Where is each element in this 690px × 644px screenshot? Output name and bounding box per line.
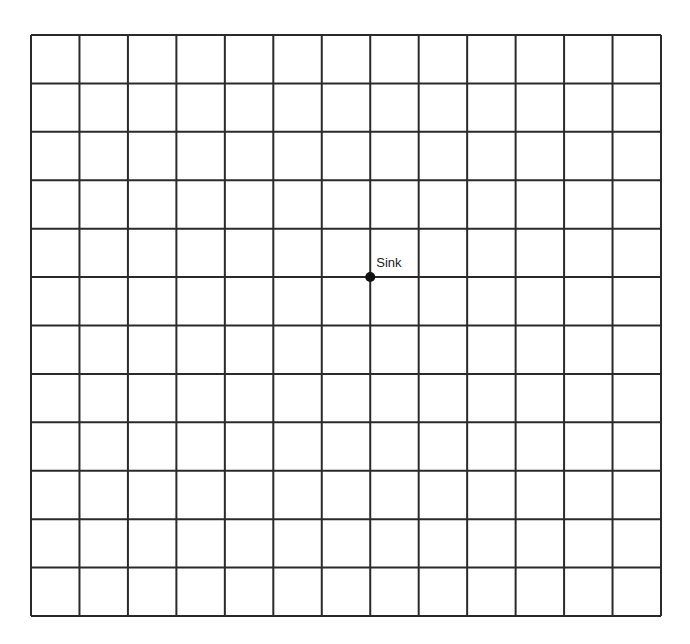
grid-diagram (0, 0, 690, 644)
sink-label: Sink (376, 255, 401, 270)
sink-dot-icon (365, 272, 375, 282)
